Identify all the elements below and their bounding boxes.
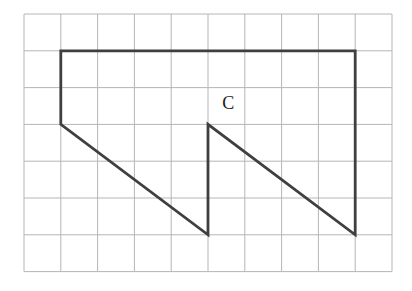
shape-label: C <box>222 93 234 113</box>
grid-canvas: C <box>0 0 412 291</box>
geometry-figure: C <box>0 0 412 291</box>
